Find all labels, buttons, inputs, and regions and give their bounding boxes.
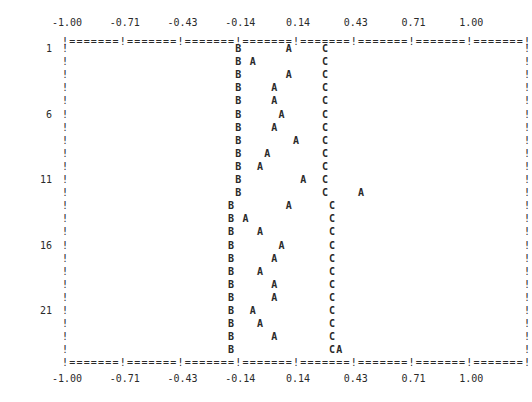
data-point-c: C [328, 267, 336, 277]
data-point-a: A [249, 57, 257, 67]
data-point-b: B [227, 254, 235, 264]
data-point-c: C [328, 254, 336, 264]
data-point-c: C [321, 136, 329, 146]
data-point-b: B [234, 44, 242, 54]
right-border-char: ! [523, 70, 531, 80]
data-point-c: C [328, 241, 336, 251]
right-border-char: ! [523, 241, 531, 251]
x-tick-label-bottom: -1.00 [52, 374, 82, 384]
data-point-a: A [242, 214, 250, 224]
data-point-a: A [270, 280, 278, 290]
data-point-b: B [227, 280, 235, 290]
data-point-a: A [256, 162, 264, 172]
right-border-char: ! [523, 293, 531, 303]
left-border-char: ! [61, 188, 69, 198]
data-point-a: A [270, 83, 278, 93]
right-border-char: ! [523, 123, 531, 133]
data-point-b: B [234, 110, 242, 120]
right-border-char: ! [523, 136, 531, 146]
data-point-b: B [234, 83, 242, 93]
data-point-c: C [321, 83, 329, 93]
data-point-a: A [270, 293, 278, 303]
data-point-a: A [285, 70, 293, 80]
data-point-c: C [328, 306, 336, 316]
left-border-char: ! [61, 214, 69, 224]
line-printer-plot: !!==============!!==============!!======… [0, 0, 532, 402]
data-point-b: B [234, 162, 242, 172]
left-border-char: ! [61, 319, 69, 329]
row-label: 16 [22, 241, 52, 251]
data-point-c: C [321, 175, 329, 185]
left-border-char: ! [61, 201, 69, 211]
data-point-a: A [256, 267, 264, 277]
data-point-c: C [328, 227, 336, 237]
bottom-border-char: ! [523, 358, 531, 368]
left-border-char: ! [61, 110, 69, 120]
left-border-char: ! [61, 162, 69, 172]
left-border-char: ! [61, 254, 69, 264]
x-tick-label-top: -0.71 [110, 18, 140, 28]
data-point-b: B [227, 319, 235, 329]
x-tick-label-top: 1.00 [459, 18, 483, 28]
data-point-c: C [328, 345, 336, 355]
data-point-a: A [299, 175, 307, 185]
right-border-char: ! [523, 319, 531, 329]
data-point-b: B [234, 136, 242, 146]
row-label: 6 [22, 110, 52, 120]
x-tick-label-top: -0.14 [225, 18, 255, 28]
data-point-c: C [321, 110, 329, 120]
right-border-char: ! [523, 188, 531, 198]
data-point-b: B [227, 306, 235, 316]
right-border-char: ! [523, 162, 531, 172]
row-label: 21 [22, 306, 52, 316]
row-label: 1 [22, 44, 52, 54]
data-point-a: A [285, 44, 293, 54]
data-point-c: C [321, 44, 329, 54]
x-tick-label-top: -0.43 [167, 18, 197, 28]
x-tick-label-top: 0.14 [286, 18, 310, 28]
left-border-char: ! [61, 293, 69, 303]
left-border-char: ! [61, 149, 69, 159]
data-point-c: C [321, 162, 329, 172]
x-tick-label-bottom: -0.43 [167, 374, 197, 384]
left-border-char: ! [61, 136, 69, 146]
right-border-char: ! [523, 227, 531, 237]
data-point-c: C [328, 214, 336, 224]
data-point-a: A [357, 188, 365, 198]
data-point-b: B [227, 214, 235, 224]
left-border-char: ! [61, 96, 69, 106]
left-border-char: ! [61, 241, 69, 251]
left-border-char: ! [61, 267, 69, 277]
data-point-b: B [227, 345, 235, 355]
data-point-c: C [321, 188, 329, 198]
right-border-char: ! [523, 267, 531, 277]
data-point-a: A [278, 110, 286, 120]
left-border-char: ! [61, 57, 69, 67]
data-point-a: A [278, 241, 286, 251]
data-point-b: B [227, 227, 235, 237]
data-point-a: A [249, 306, 257, 316]
left-border-char: ! [61, 345, 69, 355]
right-border-char: ! [523, 214, 531, 224]
data-point-c: C [321, 149, 329, 159]
data-point-a: A [263, 149, 271, 159]
data-point-a: A [285, 201, 293, 211]
left-border-char: ! [61, 175, 69, 185]
left-border-char: ! [61, 306, 69, 316]
left-border-char: ! [61, 280, 69, 290]
right-border-char: ! [523, 201, 531, 211]
left-border-char: ! [61, 123, 69, 133]
x-tick-label-bottom: -0.14 [225, 374, 255, 384]
data-point-b: B [234, 57, 242, 67]
data-point-a: A [270, 254, 278, 264]
data-point-b: B [234, 96, 242, 106]
data-point-c: C [328, 201, 336, 211]
data-point-b: B [234, 188, 242, 198]
data-point-b: B [227, 293, 235, 303]
right-border-char: ! [523, 306, 531, 316]
data-point-b: B [234, 70, 242, 80]
right-border-char: ! [523, 83, 531, 93]
data-point-b: B [227, 241, 235, 251]
right-border-char: ! [523, 149, 531, 159]
left-border-char: ! [61, 70, 69, 80]
